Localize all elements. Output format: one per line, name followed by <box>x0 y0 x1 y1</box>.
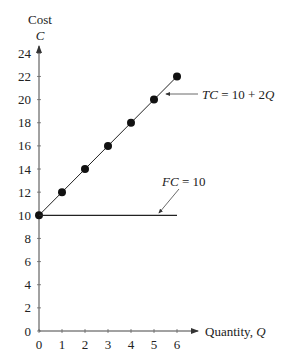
x-axis-symbol: Q <box>256 324 266 339</box>
tc-label-q: Q <box>265 87 275 102</box>
y-tick-label: 14 <box>18 162 32 177</box>
x-axis-title: Quantity, Q <box>205 324 266 339</box>
y-tick-label: 20 <box>18 92 31 107</box>
fc-label-fc: FC <box>161 174 179 189</box>
y-tick-label: 0 <box>25 324 32 339</box>
y-tick-label: 6 <box>25 254 32 269</box>
tc-point <box>58 188 66 196</box>
y-tick-label: 10 <box>18 208 31 223</box>
y-tick-label: 16 <box>18 138 32 153</box>
series-layer <box>35 72 181 219</box>
x-tick-label: 3 <box>105 337 112 352</box>
tc-label-tc: TC <box>202 87 218 102</box>
x-tick-label: 2 <box>82 337 89 352</box>
y-ticks: 024681012141618202224 <box>18 46 41 339</box>
y-tick-label: 24 <box>18 46 32 61</box>
tc-point <box>127 119 135 127</box>
tc-point <box>173 72 181 80</box>
y-tick-label: 8 <box>25 231 32 246</box>
x-ticks: 0123456 <box>36 329 181 352</box>
x-tick-label: 4 <box>128 337 135 352</box>
y-axis-title: Cost <box>28 12 52 27</box>
x-tick-label: 6 <box>174 337 181 352</box>
y-tick-label: 18 <box>18 115 31 130</box>
y-tick-label: 12 <box>18 185 31 200</box>
x-tick-label: 5 <box>151 337 158 352</box>
tc-point <box>81 165 89 173</box>
cost-chart: Cost C 024681012141618202224 0123456 Qua… <box>0 0 285 364</box>
tc-label-eq: = 10 + 2 <box>218 87 265 102</box>
y-tick-label: 4 <box>25 277 32 292</box>
tc-point <box>104 142 112 150</box>
x-axis-title-text: Quantity, <box>205 324 256 339</box>
y-axis-symbol: C <box>36 28 45 43</box>
x-tick-label: 1 <box>59 337 66 352</box>
tc-label: TC = 10 + 2Q <box>202 87 275 102</box>
fc-label-eq: = 10 <box>179 174 206 189</box>
y-tick-label: 2 <box>25 300 32 315</box>
y-tick-label: 22 <box>18 69 31 84</box>
fc-annotation-arrow <box>159 189 179 213</box>
fc-label: FC = 10 <box>161 174 205 189</box>
tc-point <box>150 96 158 104</box>
x-tick-label: 0 <box>36 337 43 352</box>
